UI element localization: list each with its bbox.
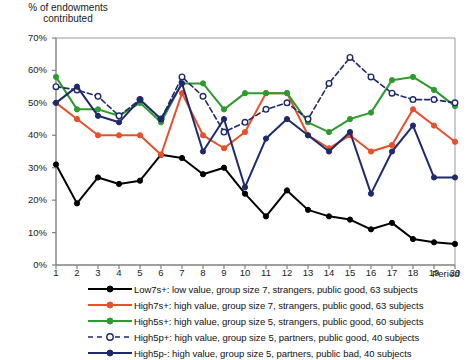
data-point (221, 116, 226, 121)
data-point (74, 84, 79, 89)
data-point (200, 172, 205, 177)
data-point (368, 149, 373, 154)
data-point (410, 74, 415, 79)
legend-point (107, 318, 113, 324)
data-point (53, 162, 58, 167)
data-point (410, 97, 416, 103)
data-point (452, 175, 457, 180)
legend-item[interactable]: High5s+: high value, group size 5, stran… (86, 313, 466, 329)
data-point (347, 129, 352, 134)
legend-point (107, 302, 113, 308)
data-point (116, 120, 121, 125)
data-point (410, 236, 415, 241)
data-point (200, 94, 206, 100)
data-point (410, 107, 415, 112)
data-point (326, 149, 331, 154)
data-point (326, 81, 332, 87)
data-point (389, 78, 394, 83)
data-point (116, 113, 122, 119)
legend-point (107, 350, 113, 356)
series-high7s- (53, 91, 457, 158)
data-point (53, 74, 58, 79)
data-point (95, 175, 100, 180)
legend-marker-icon (86, 314, 134, 328)
data-point (284, 188, 289, 193)
data-point (368, 227, 373, 232)
data-point (74, 116, 79, 121)
legend-marker-icon (86, 330, 134, 344)
data-point (158, 116, 163, 121)
data-point (263, 214, 268, 219)
data-point (74, 201, 79, 206)
legend-label: High5s+: high value, group size 5, stran… (134, 316, 423, 327)
series-line (56, 77, 455, 132)
data-point (431, 87, 436, 92)
data-point (431, 123, 436, 128)
legend-marker-icon (86, 282, 134, 296)
legend-point (107, 334, 113, 340)
data-point (389, 142, 394, 147)
data-point (53, 100, 58, 105)
data-point (368, 74, 374, 80)
data-point (137, 178, 142, 183)
data-point (179, 74, 185, 80)
data-point (200, 149, 205, 154)
data-point (305, 133, 310, 138)
legend-label: High5p+: high value, group size 5, partn… (134, 332, 419, 343)
data-point (242, 185, 247, 190)
data-point (116, 181, 121, 186)
legend-item[interactable]: High7s+: high value, group size 7, stran… (86, 297, 466, 313)
data-point (431, 97, 437, 103)
series-line (56, 93, 455, 155)
legend-label: High5p-: high value, group size 5, partn… (134, 348, 412, 359)
data-point (452, 241, 457, 246)
data-point (158, 152, 163, 157)
data-point (389, 220, 394, 225)
data-point (389, 149, 394, 154)
data-point (221, 107, 226, 112)
data-point (347, 116, 352, 121)
data-point (242, 120, 248, 126)
data-point (263, 136, 268, 141)
data-point (200, 133, 205, 138)
data-point (95, 107, 100, 112)
series-low7s- (53, 152, 457, 246)
data-point (95, 133, 100, 138)
series-line (56, 155, 455, 244)
data-point (326, 129, 331, 134)
data-point (242, 129, 247, 134)
data-point (221, 146, 226, 151)
data-point (74, 107, 79, 112)
legend-item[interactable]: High5p+: high value, group size 5, partn… (86, 329, 466, 345)
data-point (242, 91, 247, 96)
legend-item[interactable]: High5p-: high value, group size 5, partn… (86, 345, 466, 360)
data-point (368, 191, 373, 196)
series-high5s- (53, 74, 457, 134)
data-point (368, 110, 373, 115)
data-point (95, 94, 101, 100)
data-point (284, 91, 289, 96)
data-point (263, 91, 268, 96)
data-point (116, 133, 121, 138)
data-point (242, 191, 247, 196)
data-point (221, 129, 227, 135)
data-point (221, 165, 226, 170)
data-point (179, 155, 184, 160)
chart-container: % of endowments contributed Period 0%10%… (0, 0, 473, 360)
data-point (263, 107, 269, 113)
data-point (284, 100, 290, 106)
legend-label: High7s+: high value, group size 7, stran… (134, 300, 423, 311)
data-point (452, 100, 458, 106)
data-point (347, 217, 352, 222)
legend-label: Low7s+: low value, group size 7, strange… (134, 284, 418, 295)
data-point (431, 175, 436, 180)
data-point (326, 214, 331, 219)
series-high5p- (53, 55, 458, 135)
data-point (137, 97, 142, 102)
legend-marker-icon (86, 298, 134, 312)
data-point (137, 133, 142, 138)
data-point (389, 90, 395, 96)
data-point (347, 55, 353, 61)
data-point (179, 81, 184, 86)
legend-item[interactable]: Low7s+: low value, group size 7, strange… (86, 281, 466, 297)
